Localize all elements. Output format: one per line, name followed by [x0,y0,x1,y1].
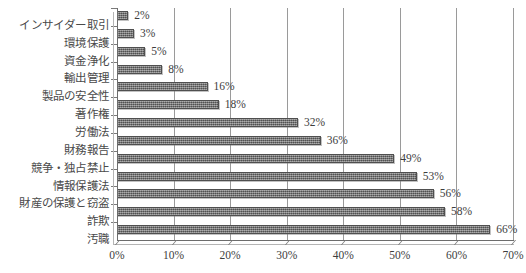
category-label: 輸出管理 [64,70,109,86]
gridline-70 [513,8,514,240]
bar-row: 56% [117,186,513,202]
x-tick-label: 30% [276,249,297,261]
bar [117,207,445,216]
category-label: 製品の安全性 [42,88,109,104]
category-label: 労働法 [75,124,109,140]
bar-row: 66% [117,222,513,238]
category-axis: インサイダー取引環境保護資金浄化輸出管理製品の安全性著作権労働法財務報告競争・独… [0,8,112,240]
bar-value-label: 2% [134,9,149,22]
category-label: 環境保護 [64,35,109,51]
bar-value-label: 5% [151,45,166,58]
x-axis-tick-labels: 0%10%20%30%40%50%60%70% [117,249,514,269]
bar [117,118,298,127]
bar [117,11,128,20]
category-label: 競争・独占禁止 [31,160,109,176]
y-axis-line [117,8,118,241]
bar [117,100,219,109]
bar-row: 36% [117,133,513,149]
x-tick-label: 10% [163,249,184,261]
plot-area: 2%3%5%8%16%18%32%36%49%53%56%58%66% [117,8,513,240]
bar-chart: インサイダー取引環境保護資金浄化輸出管理製品の安全性著作権労働法財務報告競争・独… [0,0,526,273]
bar [117,172,417,181]
bar-value-label: 3% [140,27,155,40]
bar-row: 58% [117,204,513,220]
bar-row: 18% [117,97,513,113]
bar-row: 49% [117,151,513,167]
x-tick-label: 70% [502,249,523,261]
bar [117,225,490,234]
bar-row: 16% [117,79,513,95]
bar-value-label: 18% [225,98,246,111]
category-label: 財産の保護と窃盗 [19,195,109,211]
bar-value-label: 36% [327,134,348,147]
category-label: インサイダー取引 [19,17,109,33]
x-tick-label: 0% [109,249,124,261]
bar-value-label: 53% [423,170,444,183]
bar [117,82,208,91]
bar-row: 8% [117,62,513,78]
bar-value-label: 49% [400,152,421,165]
category-label: 財務報告 [64,142,109,158]
x-tick-label: 20% [220,249,241,261]
x-tick-label: 60% [446,249,467,261]
bar [117,29,134,38]
x-tick-label: 50% [389,249,410,261]
bar-value-label: 32% [304,116,325,129]
category-label: 汚職 [87,231,109,247]
bar [117,136,321,145]
y-axis-shadow-line [113,12,114,245]
bar-value-label: 16% [214,80,235,93]
bar-value-label: 58% [451,205,472,218]
bar [117,47,145,56]
category-label: 著作権 [75,106,109,122]
bar [117,65,162,74]
bar-value-label: 8% [168,63,183,76]
x-tick-label: 40% [333,249,354,261]
bar [117,154,394,163]
bar-row: 3% [117,26,513,42]
bar-row: 32% [117,115,513,131]
bar-row: 5% [117,44,513,60]
category-label: 資金浄化 [64,53,109,69]
bar [117,189,434,198]
category-label: 詐欺 [87,213,109,229]
bar-value-label: 66% [496,223,517,236]
category-label: 情報保護法 [53,178,109,194]
bar-value-label: 56% [440,187,461,200]
bar-row: 2% [117,8,513,24]
bar-row: 53% [117,169,513,185]
